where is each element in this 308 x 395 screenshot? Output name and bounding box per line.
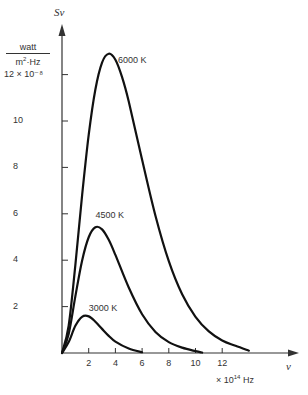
y-tick-label: 10 (13, 115, 43, 125)
x-axis-arrow-icon (288, 350, 299, 357)
x-tick-label: 12 (212, 358, 232, 368)
x-tick-label: 8 (159, 358, 179, 368)
y-unit-denominator: m2·Hz (6, 56, 50, 67)
y-tick-label: 4 (13, 254, 43, 264)
y-tick-label: 8 (13, 161, 43, 171)
y-tick-label: 2 (13, 301, 43, 311)
y-axis-arrow-icon (59, 24, 66, 36)
curve-3000k (62, 316, 142, 353)
x-tick-label: 6 (132, 358, 152, 368)
x-tick-label: 2 (79, 358, 99, 368)
curve-label: 3000 K (89, 303, 118, 313)
ticks (62, 75, 222, 353)
y-unit-numerator: watt (6, 42, 50, 54)
x-tick-label: 4 (105, 358, 125, 368)
y-axis-symbol: Sν (54, 6, 64, 18)
curve-label: 6000 K (118, 55, 147, 65)
curve-label: 4500 K (95, 210, 124, 220)
x-axis-symbol: ν (286, 360, 291, 372)
x-axis-unit: × 1014 Hz (216, 374, 254, 385)
x-tick-label: 10 (186, 358, 206, 368)
y-tick-label: 6 (13, 208, 43, 218)
y-tick-label: 12 × 10⁻⁸ (4, 69, 56, 79)
